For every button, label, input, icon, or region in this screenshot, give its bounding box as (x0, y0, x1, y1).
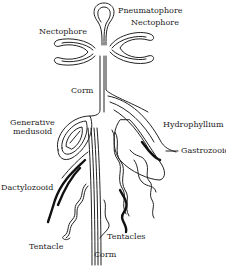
nectophore-left-shape (54, 39, 95, 65)
tentacles-right-shape (100, 130, 156, 238)
label-pneumatophore: Pneumatophore (118, 7, 182, 15)
label-tentacle: Tentacle (29, 243, 63, 251)
label-generative-line2: medusoid (13, 128, 52, 136)
label-corm-upper: Corm (71, 87, 93, 95)
label-corm-lower: Corm (94, 251, 116, 259)
pneumatophore-shape (94, 3, 114, 45)
label-dactylozooid: Dactylozooid (1, 184, 53, 192)
label-tentacles: Tentacles (107, 233, 145, 241)
siphonophore-diagram: Pneumatophore Nectophore Nectophore Corm… (0, 0, 226, 269)
label-hydrophyllium: Hydrophyllium (163, 121, 223, 129)
label-generative-line1: Generative (10, 119, 55, 127)
nectophore-right-shape (110, 33, 154, 64)
label-nectophore-left: Nectophore (39, 28, 87, 36)
dactylozooid-shape (48, 152, 88, 222)
tentacle-left-shape (63, 184, 88, 240)
label-nectophore-right: Nectophore (131, 19, 179, 27)
label-gastrozooid: Gastrozooid (181, 147, 226, 155)
